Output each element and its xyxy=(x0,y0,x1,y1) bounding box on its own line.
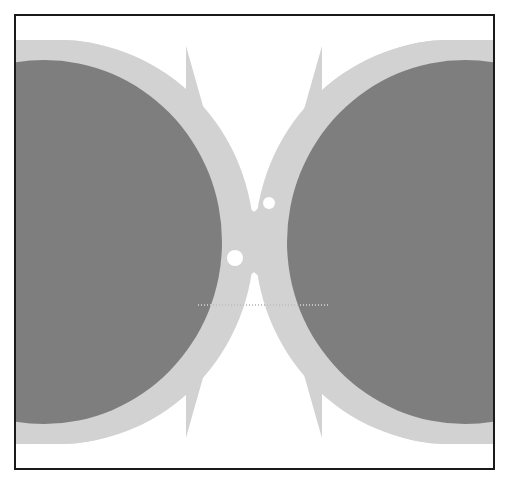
white-marker-lower xyxy=(227,250,243,266)
white-marker-upper xyxy=(263,197,275,209)
figure-canvas xyxy=(16,16,493,468)
figure-border xyxy=(14,14,495,470)
screenshot-root: Grayscale hourglass / bowtie contour fig… xyxy=(0,0,512,487)
